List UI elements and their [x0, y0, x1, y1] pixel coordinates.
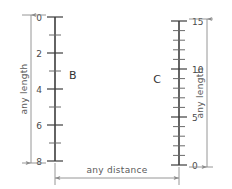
scale-c-tick-label-0: 0: [192, 161, 198, 171]
scale-b-tick-label-2: 2: [36, 49, 42, 59]
scale-c-tick-label-15: 15: [192, 17, 203, 27]
diagram-canvas: 0 2 4 6 8 B any length: [0, 0, 232, 189]
scale-diagram-svg: 0 2 4 6 8 B any length: [0, 0, 232, 189]
scale-b-group: 0 2 4 6 8 B: [36, 13, 76, 167]
scale-c-length-dimension: any length: [189, 19, 213, 167]
scale-b-name-label: B: [69, 69, 77, 82]
scale-b-tick-label-4: 4: [36, 85, 42, 95]
scale-c-length-label: any length: [195, 67, 205, 118]
any-distance-dimension: any distance: [55, 163, 179, 185]
scale-c-name-label: C: [153, 73, 161, 86]
scale-b-length-label: any length: [19, 63, 29, 114]
scale-b-tick-label-0: 0: [36, 13, 42, 23]
any-distance-label: any distance: [86, 165, 147, 175]
scale-b-tick-label-6: 6: [36, 121, 42, 131]
scale-b-tick-label-8: 8: [36, 157, 42, 167]
